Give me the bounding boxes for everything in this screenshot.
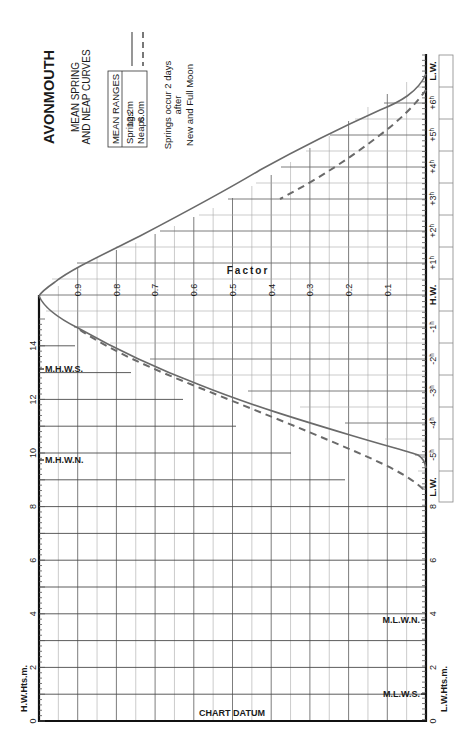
lw-height-labels: 0 2 4 6 8 L.W.Hts.m.: [428, 504, 449, 723]
svg-text:0.2: 0.2: [344, 284, 354, 297]
time-label-minus1: -1ʰ: [428, 321, 438, 333]
time-label-minus3: -3ʰ: [428, 385, 438, 397]
tidal-curve-chart: AVONMOUTH MEAN SPRING AND NEAP CURVES ME…: [0, 0, 474, 750]
factor-axis-title: Factor: [227, 265, 270, 276]
svg-text:14: 14: [28, 341, 38, 351]
factor-labels: Factor 0.9 0.8 0.7 0.6 0.5 0.4 0.3 0.2 0…: [73, 265, 393, 296]
svg-text:2: 2: [28, 665, 38, 670]
svg-text:2: 2: [428, 665, 438, 670]
hw-heights-axis-title: H.W.Hts.m.: [19, 665, 29, 712]
neaps-curve: [80, 90, 426, 492]
time-label-plus5: +5ʰ: [428, 128, 438, 142]
springs-note-line3: New and Full Moon: [184, 64, 195, 146]
mlwn-marker: M.L.W.N.: [383, 615, 421, 625]
time-label-minus4: -4ʰ: [428, 417, 438, 429]
svg-text:4: 4: [28, 611, 38, 616]
svg-text:8: 8: [28, 504, 38, 509]
svg-text:6: 6: [428, 558, 438, 563]
mean-ranges-header: MEAN RANGES: [110, 74, 121, 144]
svg-text:0: 0: [428, 718, 438, 723]
svg-text:6: 6: [28, 558, 38, 563]
svg-text:0.8: 0.8: [112, 284, 122, 297]
mhwn-marker: M.H.W.N.: [45, 455, 84, 465]
time-label-minus5: -5ʰ: [428, 449, 438, 461]
svg-text:10: 10: [28, 448, 38, 458]
neaps-value: 6.0m: [135, 101, 146, 122]
springs-value: 12.2m: [124, 101, 135, 127]
subtitle-line1: MEAN SPRING: [70, 62, 81, 132]
time-label-lw-bottom: L.W.: [427, 477, 438, 497]
title-block: AVONMOUTH MEAN SPRING AND NEAP CURVES ME…: [41, 32, 195, 149]
svg-text:0.7: 0.7: [150, 284, 160, 297]
time-label-lw-top: L.W.: [427, 61, 438, 81]
svg-text:0: 0: [28, 718, 38, 723]
subtitle-line2: AND NEAP CURVES: [81, 49, 92, 145]
hw-height-labels: 0 2 4 6 8 10 12 14 H.W.Hts.m.: [19, 341, 38, 724]
svg-text:8: 8: [428, 504, 438, 509]
chart-datum-label: CHART DATUM: [199, 708, 265, 718]
svg-text:0.3: 0.3: [305, 284, 315, 297]
time-label-hw: H.W.: [427, 285, 438, 306]
time-label-plus1: +1ʰ: [428, 256, 438, 270]
time-label-plus3: +3ʰ: [428, 192, 438, 206]
svg-text:0.9: 0.9: [73, 284, 83, 297]
port-title: AVONMOUTH: [41, 50, 57, 144]
mlws-marker: M.L.W.S.: [383, 689, 420, 699]
svg-text:4: 4: [428, 611, 438, 616]
lw-heights-axis-title: L.W.Hts.m.: [439, 666, 449, 712]
time-label-plus2: +2ʰ: [428, 224, 438, 238]
svg-text:0.4: 0.4: [267, 284, 277, 297]
mhws-marker: M.H.W.S.: [45, 364, 83, 374]
svg-text:0.6: 0.6: [189, 284, 199, 297]
springs-note-line2: after: [172, 95, 183, 114]
time-scale: L.W. +6ʰ +5ʰ +4ʰ +3ʰ +2ʰ +1ʰ H.W. -1ʰ -2…: [427, 55, 453, 502]
time-label-plus6: +6ʰ: [428, 96, 438, 110]
svg-text:0.5: 0.5: [228, 284, 238, 297]
svg-text:12: 12: [28, 394, 38, 404]
time-label-plus4: +4ʰ: [428, 160, 438, 174]
time-label-minus2: -2ʰ: [428, 353, 438, 365]
svg-text:0.1: 0.1: [383, 284, 393, 297]
